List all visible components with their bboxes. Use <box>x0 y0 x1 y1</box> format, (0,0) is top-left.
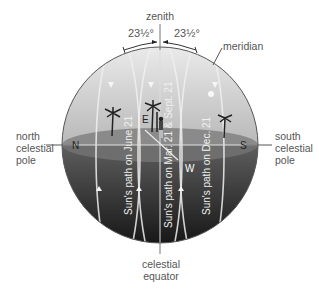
angle-left-label: 23½° <box>128 27 154 39</box>
meridian-label: meridian <box>223 40 263 52</box>
north-celestial-pole-label: north celestial pole <box>16 130 54 166</box>
june-path-label: Sun's path on June 21 <box>123 115 134 215</box>
sun-icon <box>208 91 214 97</box>
december-path-label: Sun's path on Dec. 21 <box>201 116 212 215</box>
angle-right-label: 23½° <box>174 27 200 39</box>
east-marker: E <box>142 114 149 125</box>
meridian-leader <box>213 48 222 65</box>
celestial-equator-label: celestial equator <box>138 258 184 282</box>
zenith-label: zenith <box>146 10 174 22</box>
south-celestial-pole-label: south celestial pole <box>275 130 313 166</box>
equinox-path-label: Sun's path on Mar. 21 & Sept. 21 <box>163 81 174 228</box>
south-marker: S <box>240 140 247 151</box>
north-marker: N <box>72 140 79 151</box>
west-marker: W <box>185 163 195 174</box>
